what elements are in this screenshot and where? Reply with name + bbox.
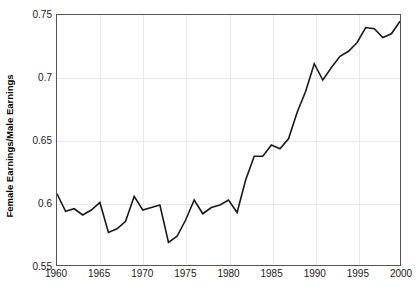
line-chart: Female Earnings/Male Earnings 0.550.60.6… xyxy=(0,0,419,292)
y-axis-tick-label: 0.75 xyxy=(6,9,52,20)
x-axis-tick-label: 1990 xyxy=(304,268,326,279)
y-axis-tick-label: 0.7 xyxy=(6,72,52,83)
y-axis-tick-labels: 0.550.60.650.70.75 xyxy=(0,14,52,266)
x-axis-tick-label: 1960 xyxy=(45,268,67,279)
data-series-line xyxy=(57,21,400,242)
x-axis-tick-label: 1975 xyxy=(174,268,196,279)
x-axis-tick-labels: 196019651970197519801985199019952000 xyxy=(56,268,401,286)
plot-area xyxy=(56,14,401,266)
x-axis-tick-label: 1980 xyxy=(217,268,239,279)
x-axis-tick-label: 1995 xyxy=(347,268,369,279)
x-axis-tick-label: 2000 xyxy=(390,268,412,279)
y-axis-tick-label: 0.65 xyxy=(6,135,52,146)
x-axis-tick-label: 1970 xyxy=(131,268,153,279)
x-axis-tick-label: 1985 xyxy=(261,268,283,279)
x-axis-tick-label: 1965 xyxy=(88,268,110,279)
data-line-svg xyxy=(57,15,400,265)
y-axis-tick-label: 0.6 xyxy=(6,198,52,209)
